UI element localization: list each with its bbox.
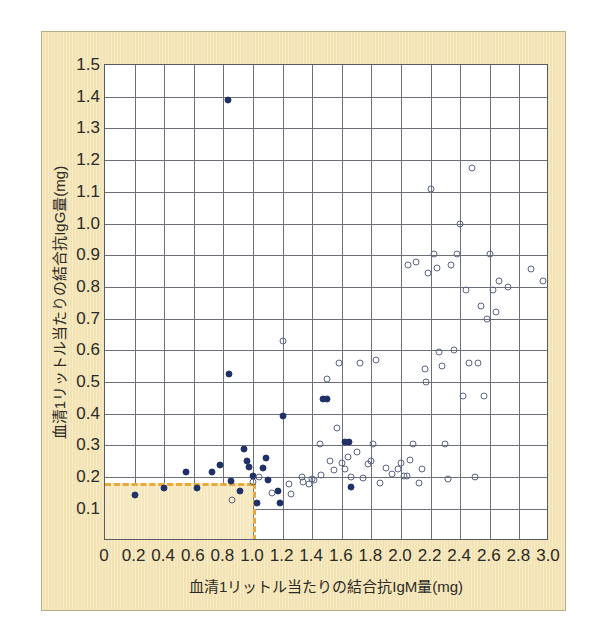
data-point-filled [183,469,190,476]
data-point-open [412,258,419,265]
data-point-open [480,393,487,400]
data-point-filled [245,463,252,470]
y-tick-label: 1.2 [46,151,100,168]
gridline-horizontal [105,477,547,478]
data-point-filled [264,476,271,483]
data-point-open [383,464,390,471]
data-point-open [460,393,467,400]
gridline-horizontal [105,97,547,98]
data-point-open [316,440,323,447]
data-point-open [310,477,317,484]
y-tick-label: 1.4 [46,87,100,104]
gridline-vertical [194,65,195,539]
data-point-filled [236,488,243,495]
data-point-open [439,363,446,370]
gridline-vertical [283,65,284,539]
gridline-horizontal [105,224,547,225]
data-point-open [504,283,511,290]
y-tick-label: 0.2 [46,468,100,485]
x-tick-label: 1.6 [329,547,353,564]
plot-inner [105,65,547,539]
data-point-open [288,490,295,497]
gridline-horizontal [105,192,547,193]
gridline-vertical [460,65,461,539]
y-tick-label: 0.7 [46,309,100,326]
data-point-open [448,261,455,268]
x-axis-title: 血清1リットル当たりの結合抗IgM量(mg) [104,575,548,596]
gridline-horizontal [105,445,547,446]
data-point-open [368,457,375,464]
data-point-open [395,466,402,473]
y-tick-label: 0.6 [46,341,100,358]
data-point-open [372,356,379,363]
data-point-open [474,359,481,366]
gridline-vertical [519,65,520,539]
y-tick-label: 0.3 [46,436,100,453]
x-tick-label: 2.0 [388,547,412,564]
threshold-shaded-region [105,483,253,539]
data-point-open [540,277,547,284]
data-point-open [347,474,354,481]
data-point-filled [275,488,282,495]
data-point-filled [131,491,138,498]
gridline-vertical [371,65,372,539]
y-tick-label: 0.1 [46,499,100,516]
data-point-open [359,474,366,481]
data-point-open [344,454,351,461]
gridline-vertical [490,65,491,539]
x-tick-label: 0.2 [122,547,146,564]
gridline-vertical [431,65,432,539]
data-point-open [430,250,437,257]
data-point-open [492,309,499,316]
data-point-open [483,315,490,322]
x-tick-label: 2.6 [477,547,501,564]
threshold-line-vertical [253,483,256,539]
data-point-open [406,456,413,463]
data-point-filled [260,465,267,472]
data-point-open [334,424,341,431]
x-tick-label: 2.4 [447,547,471,564]
gridline-vertical [164,65,165,539]
data-point-open [436,348,443,355]
data-point-open [353,449,360,456]
x-axis-tick-labels: 00.20.40.60.81.01.21.41.61.82.02.22.42.6… [104,547,548,571]
data-point-open [454,250,461,257]
data-point-open [477,302,484,309]
x-tick-label: 0.6 [181,547,205,564]
data-point-open [486,250,493,257]
x-tick-label: 1.8 [359,547,383,564]
data-point-open [335,359,342,366]
data-point-open [489,287,496,294]
data-point-filled [346,438,353,445]
data-point-filled [254,500,261,507]
data-point-open [445,475,452,482]
x-tick-label: 1.2 [270,547,294,564]
gridline-vertical [223,65,224,539]
data-point-filled [208,469,215,476]
data-point-filled [217,462,224,469]
y-tick-label: 1.1 [46,182,100,199]
data-point-filled [193,485,200,492]
data-point-filled [241,445,248,452]
data-point-open [318,471,325,478]
data-point-filled [226,371,233,378]
data-point-filled [224,96,231,103]
y-axis-tick-labels: 0.10.20.30.40.50.60.70.80.91.01.11.21.31… [40,64,100,540]
data-point-open [415,479,422,486]
data-point-filled [263,455,270,462]
y-tick-label: 1.3 [46,119,100,136]
gridline-horizontal [105,319,547,320]
data-point-open [326,457,333,464]
data-point-open [451,347,458,354]
data-point-open [424,269,431,276]
gridline-horizontal [105,128,547,129]
data-point-open [442,440,449,447]
data-point-open [433,264,440,271]
data-point-open [398,459,405,466]
gridline-vertical [253,65,254,539]
data-point-filled [324,396,331,403]
data-point-filled [279,413,286,420]
scatter-plot-area [104,64,548,540]
data-point-open [469,165,476,172]
data-point-open [229,496,236,503]
